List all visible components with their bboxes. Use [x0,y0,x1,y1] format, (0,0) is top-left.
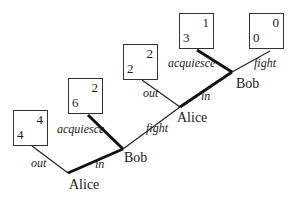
edge-label-out-1: out [31,156,46,171]
node-label-bob-2: Bob [236,76,259,92]
payoff-bob: 4 [37,112,44,128]
payoff-alice: 6 [72,95,79,111]
payoff-bob: 2 [147,46,154,62]
payoff-alice: 0 [253,30,260,46]
payoff-bob: 2 [92,80,99,96]
edge-label-fight-2: fight [254,56,276,71]
payoff-box-5: 0 0 [249,13,284,49]
edge-label-acquiesce-2: acquiesce [168,56,215,71]
edge-label-in-1: in [95,157,104,172]
edge-label-out-2: out [143,86,158,101]
edge-label-acquiesce-1: acquiesce [57,122,104,137]
payoff-bob: 1 [203,15,210,31]
payoff-box-4: 1 3 [179,13,214,49]
payoff-box-1: 4 4 [13,110,48,146]
edge-label-in-2: in [201,89,210,104]
payoff-bob: 0 [273,15,280,31]
node-label-bob-1: Bob [124,150,147,166]
payoff-box-3: 2 2 [123,44,158,80]
payoff-alice: 4 [17,127,24,143]
payoff-alice: 2 [127,61,134,77]
payoff-alice: 3 [183,30,190,46]
edge-label-fight-1: fight [146,121,168,136]
node-label-alice-1: Alice [69,177,99,193]
payoff-box-2: 2 6 [68,78,103,114]
node-label-alice-2: Alice [177,110,207,126]
